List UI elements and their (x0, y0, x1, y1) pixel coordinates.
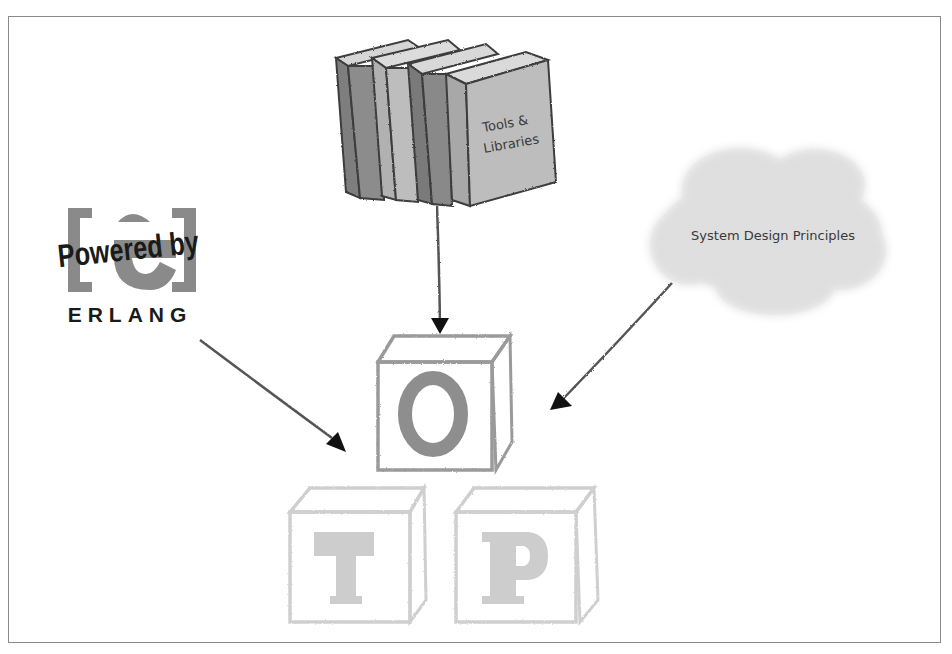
erlang-name: ERLANG (68, 303, 193, 326)
otp-block-p (456, 488, 598, 622)
diagram-canvas: Tools & Libraries Powered by ERLANG Syst… (0, 0, 952, 654)
arrow-cloud-to-otp (550, 283, 672, 410)
otp-letter-p (482, 532, 548, 604)
otp-letter-t (314, 532, 374, 604)
arrow-erlang-to-otp (200, 340, 346, 452)
cloud-label: System Design Principles (691, 228, 855, 243)
arrow-books-to-otp (431, 206, 449, 334)
otp-letter-o (405, 378, 461, 450)
